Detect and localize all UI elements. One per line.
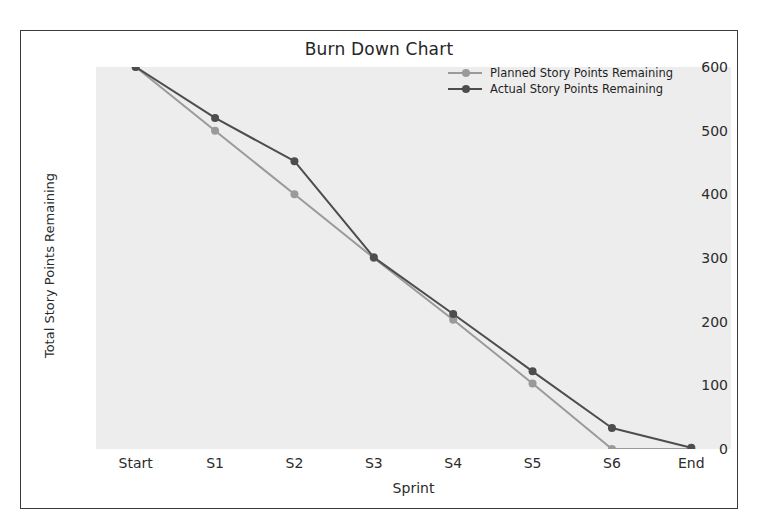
x-tick-label: S3 bbox=[334, 455, 414, 471]
x-tick-label: S6 bbox=[572, 455, 652, 471]
y-tick-label: 300 bbox=[671, 250, 737, 266]
series-line bbox=[136, 67, 692, 448]
x-axis-label: Sprint bbox=[96, 480, 731, 496]
chart-legend: Planned Story Points RemainingActual Sto… bbox=[441, 59, 682, 103]
legend-item[interactable]: Planned Story Points Remaining bbox=[448, 65, 673, 81]
legend-label: Actual Story Points Remaining bbox=[490, 82, 663, 96]
data-point-marker bbox=[211, 127, 219, 135]
legend-marker-icon bbox=[448, 83, 482, 95]
x-tick-label: Start bbox=[96, 455, 176, 471]
data-point-marker bbox=[449, 310, 457, 318]
data-point-marker bbox=[370, 253, 378, 261]
data-point-marker bbox=[529, 367, 537, 375]
series-line bbox=[136, 67, 692, 449]
x-tick-label: S2 bbox=[254, 455, 334, 471]
data-point-marker bbox=[211, 114, 219, 122]
chart-title: Burn Down Chart bbox=[21, 39, 737, 59]
data-point-marker bbox=[608, 424, 616, 432]
y-axis-label: Total Story Points Remaining bbox=[42, 75, 57, 457]
chart-figure: Burn Down Chart 0100200300400500600 Star… bbox=[20, 30, 738, 509]
data-point-marker bbox=[529, 379, 537, 387]
plot-area bbox=[96, 67, 731, 449]
y-tick-label: 100 bbox=[671, 377, 737, 393]
y-tick-label: 500 bbox=[671, 123, 737, 139]
legend-item[interactable]: Actual Story Points Remaining bbox=[448, 81, 673, 97]
x-tick-label: S1 bbox=[175, 455, 255, 471]
x-tick-label: End bbox=[651, 455, 731, 471]
legend-marker-icon bbox=[448, 67, 482, 79]
x-tick-label: S5 bbox=[493, 455, 573, 471]
data-point-marker bbox=[290, 190, 298, 198]
legend-label: Planned Story Points Remaining bbox=[490, 66, 673, 80]
y-tick-label: 200 bbox=[671, 314, 737, 330]
y-tick-label: 400 bbox=[671, 186, 737, 202]
chart-svg bbox=[96, 67, 731, 449]
x-tick-label: S4 bbox=[413, 455, 493, 471]
data-point-marker bbox=[290, 157, 298, 165]
